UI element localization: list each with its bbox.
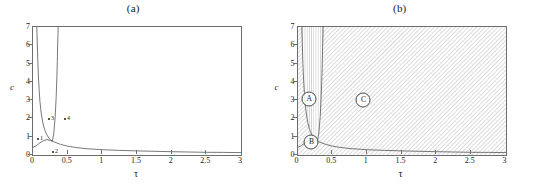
panel-b-ytickmark bbox=[293, 99, 297, 100]
panel-a-point-1: 1 bbox=[37, 135, 43, 141]
panel-b-ytickmark bbox=[293, 117, 297, 118]
panel-b-xtick-2: 1 bbox=[354, 156, 378, 165]
panel-a-xtickmark bbox=[67, 150, 68, 154]
panel-a-point-4: 4 bbox=[64, 115, 70, 121]
panel-b-ytick-7: 7 bbox=[281, 22, 295, 31]
panel-a-ytickmark bbox=[28, 99, 32, 100]
panel-a-ytickmark bbox=[28, 63, 32, 64]
panel-b-ytickmark bbox=[293, 44, 297, 45]
panel-a-xtick-6: 3 bbox=[228, 156, 252, 165]
panel-a-xtickmark bbox=[171, 150, 172, 154]
panel-a-ytickmark bbox=[28, 81, 32, 82]
panel-a-title: (a) bbox=[0, 2, 267, 14]
panel-b-xtickmark bbox=[366, 150, 367, 154]
panel-a-xtickmark bbox=[136, 150, 137, 154]
panel-a-curves bbox=[33, 27, 241, 155]
panel-b-xtick-4: 2 bbox=[423, 156, 447, 165]
panel-a-xtick-2: 1 bbox=[89, 156, 113, 165]
panel-b-xtick-1: 0.5 bbox=[319, 156, 343, 165]
region-label-b: B bbox=[304, 134, 319, 149]
panel-b-xtickmark bbox=[470, 150, 471, 154]
panel-b-title: (b) bbox=[267, 2, 533, 14]
panel-b-xtickmark bbox=[435, 150, 436, 154]
region-c-fill bbox=[317, 27, 506, 153]
panel-a-xtickmark bbox=[205, 150, 206, 154]
panel-b-y-axis-label: c bbox=[275, 82, 279, 92]
panel-a-plot-area: 1 2 3 4 bbox=[32, 26, 242, 156]
panel-a: (a) c τ 1 2 3 4 bbox=[0, 0, 267, 187]
panel-a-ytickmark bbox=[28, 117, 32, 118]
panel-b-ytickmark bbox=[293, 154, 297, 155]
panel-b-x-axis-label: τ bbox=[297, 168, 505, 179]
panel-a-ytickmark bbox=[28, 154, 32, 155]
panel-a-xtick-5: 2.5 bbox=[193, 156, 217, 165]
panel-b-xtick-5: 2.5 bbox=[458, 156, 482, 165]
panel-b-xtickmark bbox=[331, 150, 332, 154]
panel-b-xtickmark bbox=[401, 150, 402, 154]
point-marker-dot bbox=[64, 118, 66, 120]
panel-b-xtick-3: 1.5 bbox=[389, 156, 413, 165]
panel-a-ytick-7: 7 bbox=[16, 22, 30, 31]
panel-a-xtick-4: 2 bbox=[159, 156, 183, 165]
panel-b: (b) c τ bbox=[267, 0, 533, 187]
panel-a-point-2: 2 bbox=[52, 148, 58, 154]
point-marker-dot bbox=[52, 151, 54, 153]
panel-a-ytickmark bbox=[28, 136, 32, 137]
region-label-c: C bbox=[356, 93, 371, 108]
panel-b-regions bbox=[298, 27, 506, 155]
point-marker-dot bbox=[48, 118, 50, 120]
figure-container: (a) c τ 1 2 3 4 bbox=[0, 0, 533, 187]
panel-a-y-axis-label: c bbox=[10, 82, 14, 92]
panel-b-xtick-6: 3 bbox=[493, 156, 517, 165]
point-marker-dot bbox=[37, 138, 39, 140]
panel-a-xtick-3: 1.5 bbox=[124, 156, 148, 165]
panel-a-xtickmark bbox=[101, 150, 102, 154]
region-label-a: A bbox=[302, 92, 317, 107]
panel-b-ytickmark bbox=[293, 136, 297, 137]
panel-a-xtick-1: 0.5 bbox=[55, 156, 79, 165]
panel-a-xtick-0: 0 bbox=[20, 156, 44, 165]
panel-b-plot-area: A B C bbox=[297, 26, 507, 156]
panel-a-ytickmark bbox=[28, 44, 32, 45]
panel-a-point-3: 3 bbox=[48, 115, 54, 121]
panel-b-ytickmark bbox=[293, 81, 297, 82]
panel-b-xtick-0: 0 bbox=[285, 156, 309, 165]
panel-a-x-axis-label: τ bbox=[32, 168, 240, 179]
panel-b-ytickmark bbox=[293, 63, 297, 64]
